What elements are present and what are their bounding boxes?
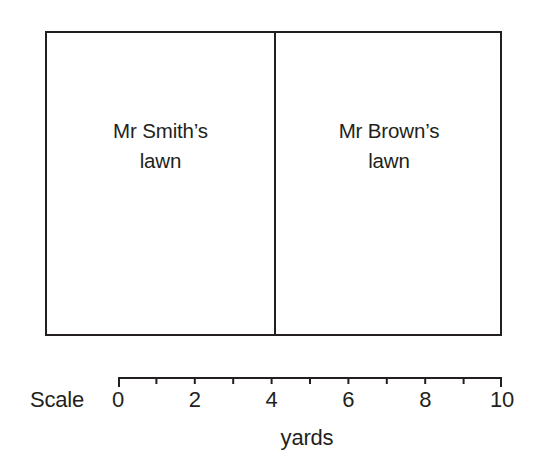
scale-tick-label-10: 10 bbox=[490, 387, 514, 413]
lawn-divider-line bbox=[274, 31, 276, 336]
lawns-scale-figure: Mr Smith’s lawn Mr Brown’s lawn Scale 02… bbox=[0, 0, 546, 470]
lawn-label-smith-line1: Mr Smith’s bbox=[47, 116, 274, 146]
scale-tick-label-0: 0 bbox=[112, 387, 124, 413]
scale-tick-label-2: 2 bbox=[189, 387, 201, 413]
lawn-label-brown-line2: lawn bbox=[276, 146, 502, 176]
axis-title-yards: yards bbox=[0, 425, 546, 451]
scale-word-label: Scale bbox=[30, 387, 84, 413]
lawn-label-brown: Mr Brown’s lawn bbox=[276, 116, 502, 175]
scale-tick-label-6: 6 bbox=[342, 387, 354, 413]
scale-tick-label-4: 4 bbox=[266, 387, 278, 413]
lawn-label-smith-line2: lawn bbox=[47, 146, 274, 176]
scale-tick-label-8: 8 bbox=[419, 387, 431, 413]
axis-title-yards-text: yards bbox=[281, 425, 334, 450]
lawn-label-brown-line1: Mr Brown’s bbox=[276, 116, 502, 146]
lawn-label-smith: Mr Smith’s lawn bbox=[47, 116, 274, 175]
